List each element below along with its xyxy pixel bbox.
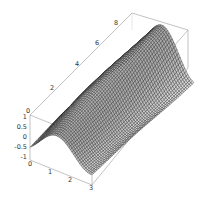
y-tick-label: 2 — [50, 84, 54, 92]
y-tick-label: 6 — [95, 39, 99, 47]
x-tick-label: 3 — [89, 184, 93, 192]
z-tick-label: 0.5 — [17, 123, 27, 131]
surface-mesh — [30, 25, 194, 175]
z-axis: 1 0.5 0 -0.5 -1 — [14, 113, 27, 161]
surface-plot: 1 0.5 0 -0.5 -1 0 2 4 6 8 0 1 2 3 — [0, 0, 202, 200]
y-tick-label: 4 — [75, 60, 79, 68]
z-tick-label: 0 — [23, 133, 27, 141]
z-tick-label: -0.5 — [14, 143, 27, 151]
y-tick-label: 8 — [114, 19, 118, 27]
x-tick-label: 2 — [68, 176, 72, 184]
z-tick-label: -1 — [21, 153, 27, 161]
x-tick-label: 1 — [48, 168, 52, 176]
x-tick-label: 0 — [28, 160, 32, 168]
y-tick-label: 0 — [26, 107, 30, 115]
